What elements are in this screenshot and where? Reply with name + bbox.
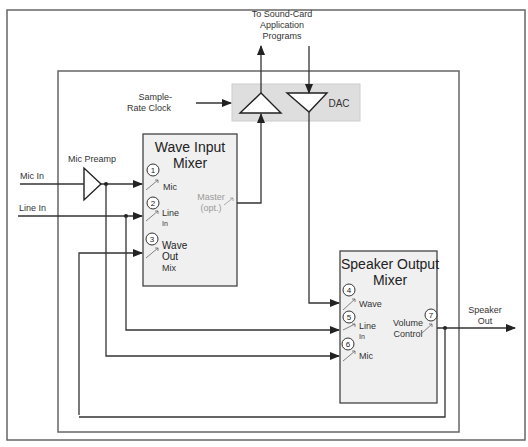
to-sound-card-line2: Application <box>260 20 304 30</box>
input-1-label: Mic <box>163 182 177 192</box>
input-2-label-line2: In <box>162 220 168 227</box>
to-sound-card-line3: Programs <box>262 31 302 41</box>
wave-input-mixer-title-line2: Mixer <box>173 155 208 171</box>
dac-label: DAC <box>328 98 349 109</box>
sound-mixer-diagram: DAC To Sound-Card Application Programs S… <box>0 0 528 447</box>
output-7-number: 7 <box>429 311 434 320</box>
sample-rate-label-line2: Rate Clock <box>127 103 172 113</box>
volume-control-label-line1: Volume <box>393 318 423 328</box>
input-1-number: 1 <box>151 166 156 175</box>
line-in-label: Line In <box>19 203 46 213</box>
speaker-out-label-line1: Speaker <box>468 305 502 315</box>
input-5-label-line2: In <box>359 333 365 340</box>
input-3-label-line2: Out <box>162 251 178 262</box>
input-4-number: 4 <box>347 286 352 295</box>
input-3-label-line1: Wave <box>162 240 188 251</box>
input-3-number: 3 <box>150 235 155 244</box>
input-2-number: 2 <box>151 199 156 208</box>
wave-out-mix-wire <box>79 253 142 415</box>
dac-to-speaker-wire <box>309 112 339 303</box>
mic-in-label: Mic In <box>20 171 44 181</box>
master-label-line1: Master <box>197 192 225 202</box>
speaker-mixer-title-line2: Mixer <box>373 272 408 288</box>
input-5-label-line1: Line <box>359 321 376 331</box>
to-sound-card-line1: To Sound-Card <box>252 9 313 19</box>
volume-control-label-line2: Control <box>393 329 422 339</box>
sample-rate-label-line1: Sample- <box>138 92 172 102</box>
outer-frame <box>7 10 525 440</box>
input-5-number: 5 <box>347 313 352 322</box>
wave-input-mixer-title-line1: Wave Input <box>155 139 225 155</box>
mic-preamp-triangle-icon <box>84 168 101 200</box>
speaker-mixer-title-line1: Speaker Output <box>341 256 439 272</box>
master-label-line2: (opt.) <box>200 203 221 213</box>
input-6-number: 6 <box>346 340 351 349</box>
input-4-label: Wave <box>359 299 382 309</box>
input-6-label: Mic <box>359 351 373 361</box>
input-2-label-line1: Line <box>162 208 179 218</box>
mic-preamp-label: Mic Preamp <box>68 154 116 164</box>
input-3-label-line3: Mix <box>162 263 176 273</box>
speaker-out-label-line2: Out <box>478 316 493 326</box>
master-to-adc-wire <box>237 114 261 203</box>
